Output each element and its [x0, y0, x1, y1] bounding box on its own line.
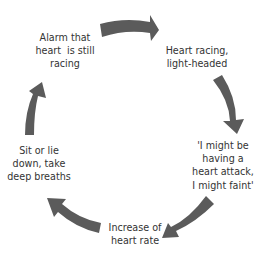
node-coping-line-1: Sit or lie [7, 144, 70, 157]
node-heart-racing-line-1: Heart racing, [166, 44, 229, 57]
arrow-increase-to-coping-icon [47, 198, 101, 233]
node-alarm: Alarm that heart is still racing [35, 31, 94, 71]
cycle-diagram: Alarm that heart is still racing Heart r… [0, 0, 263, 257]
node-alarm-line-2: heart is still [35, 44, 94, 57]
arrow-alarm-to-racing-icon [100, 15, 159, 41]
node-thought-line-4: I might faint' [192, 179, 254, 192]
node-catastrophic-thought: 'I might be having a heart attack, I mig… [192, 139, 254, 192]
node-thought-line-3: heart attack, [192, 165, 254, 178]
node-coping-action: Sit or lie down, take deep breaths [7, 144, 70, 184]
arrow-thought-to-increase-icon [162, 196, 214, 238]
node-thought-line-1: 'I might be [192, 139, 254, 152]
node-coping-line-3: deep breaths [7, 170, 70, 183]
node-increase-line-2: heart rate [109, 234, 162, 247]
node-alarm-line-1: Alarm that [35, 31, 94, 44]
arrow-coping-to-alarm-icon [25, 82, 46, 135]
node-increase-line-1: Increase of [109, 221, 162, 234]
node-increase-heart-rate: Increase of heart rate [109, 221, 162, 247]
node-alarm-line-3: racing [35, 57, 94, 70]
node-heart-racing: Heart racing, light-headed [166, 44, 229, 70]
arrow-racing-to-thought-icon [213, 75, 244, 134]
node-heart-racing-line-2: light-headed [166, 57, 229, 70]
node-coping-line-2: down, take [7, 157, 70, 170]
node-thought-line-2: having a [192, 152, 254, 165]
